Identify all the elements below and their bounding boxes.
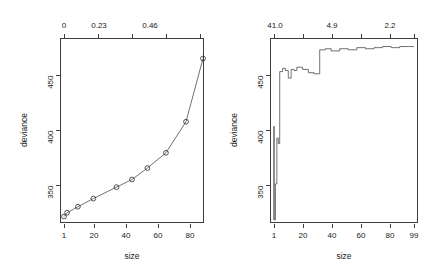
chart-panel-left: 0 0.23 0.46 450 400 350 deviance 1 20 40… (0, 0, 215, 277)
plot-area-right (270, 38, 418, 223)
x-tick-right-99 (414, 224, 415, 228)
chart-panel-right: 41.0 4.9 2.2 450 400 350 deviance 1 20 4… (215, 0, 430, 277)
x-tick-left-60 (158, 224, 159, 228)
x-tick-label-right-80: 80 (386, 231, 395, 240)
y-tick-right-450 (266, 75, 270, 76)
x-tick-label-left-20: 20 (90, 231, 99, 240)
top-tick-left-5 (200, 34, 201, 38)
top-tick-right-2 (303, 34, 304, 38)
x-tick-label-left-1: 1 (62, 231, 66, 240)
top-tick-left-3 (132, 34, 133, 38)
y-tick-label-right-350: 350 (256, 186, 265, 206)
x-tick-left-20 (94, 224, 95, 228)
x-tick-label-left-80: 80 (186, 231, 195, 240)
x-tick-right-60 (361, 224, 362, 228)
top-tick-right-5 (390, 34, 391, 38)
y-tick-label-left-400: 400 (46, 131, 55, 151)
top-tick-right-3 (332, 34, 333, 38)
top-tick-right-1 (274, 34, 275, 38)
y-tick-left-450 (56, 75, 60, 76)
x-tick-label-left-60: 60 (154, 231, 163, 240)
top-tick-label-right-2: 4.9 (326, 21, 337, 30)
x-tick-label-right-99: 99 (410, 231, 419, 240)
x-axis-title-right: size (336, 251, 351, 261)
x-tick-right-20 (303, 224, 304, 228)
top-tick-left-1 (64, 34, 65, 38)
x-tick-label-right-20: 20 (299, 231, 308, 240)
x-axis-title-left: size (124, 251, 139, 261)
x-tick-label-right-60: 60 (357, 231, 366, 240)
x-tick-right-40 (332, 224, 333, 228)
top-tick-label-left-3: 0.46 (142, 21, 158, 30)
y-tick-label-left-350: 350 (46, 186, 55, 206)
top-tick-label-right-3: 2.2 (384, 21, 395, 30)
y-tick-label-left-450: 450 (46, 76, 55, 96)
x-tick-label-right-1: 1 (272, 231, 276, 240)
x-tick-label-left-40: 40 (122, 231, 131, 240)
y-tick-left-400 (56, 130, 60, 131)
x-tick-left-40 (126, 224, 127, 228)
x-tick-left-80 (190, 224, 191, 228)
top-tick-label-left-2: 0.23 (91, 21, 107, 30)
y-axis-title-right: deviance (229, 110, 239, 150)
top-tick-right-6 (414, 34, 415, 38)
y-axis-title-left: deviance (19, 110, 29, 150)
x-tick-left-1 (64, 224, 65, 228)
top-tick-left-4 (166, 34, 167, 38)
y-tick-right-350 (266, 185, 270, 186)
top-tick-label-left-1: 0 (62, 21, 66, 30)
x-tick-right-80 (390, 224, 391, 228)
top-tick-left-2 (98, 34, 99, 38)
top-tick-label-right-1: 41.0 (267, 21, 283, 30)
top-tick-right-4 (361, 34, 362, 38)
x-tick-right-1 (274, 224, 275, 228)
y-tick-label-right-400: 400 (256, 131, 265, 151)
y-tick-label-right-450: 450 (256, 76, 265, 96)
x-tick-label-right-40: 40 (328, 231, 337, 240)
y-tick-right-400 (266, 130, 270, 131)
plot-area-left (60, 38, 204, 223)
figure-canvas: 0 0.23 0.46 450 400 350 deviance 1 20 40… (0, 0, 430, 277)
y-tick-left-350 (56, 185, 60, 186)
